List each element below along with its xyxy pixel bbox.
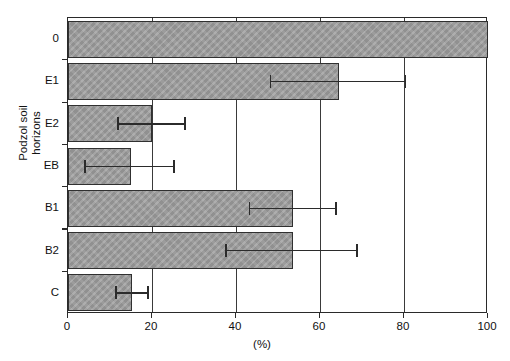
- error-bar-cap-low: [249, 202, 251, 215]
- y-tick-5: [62, 228, 67, 229]
- y-tick-1: [62, 59, 67, 60]
- error-bar-E1: [270, 75, 407, 88]
- y-tick-2: [62, 102, 67, 103]
- error-bar-cap-low: [270, 75, 272, 88]
- error-bar-E2: [117, 117, 185, 130]
- bar-chart-figure: 020406080100 0E1E2EBB1B2C (%) Podzol soi…: [0, 0, 510, 361]
- error-bar-line: [117, 123, 185, 124]
- error-bar-cap-high: [147, 286, 149, 299]
- y-tick-3: [62, 144, 67, 145]
- x-tick-label-0: 0: [64, 320, 70, 332]
- error-bar-line: [225, 250, 358, 251]
- bar-row: [68, 21, 488, 58]
- y-tick-6: [62, 271, 67, 272]
- x-tick-label-40: 40: [229, 320, 242, 332]
- error-bar-cap-high: [335, 202, 337, 215]
- error-bar-B2: [225, 244, 358, 257]
- bar-row: [68, 190, 488, 227]
- x-tick-40: [235, 313, 236, 318]
- error-bar-cap-low: [115, 286, 117, 299]
- x-tick-0: [67, 313, 68, 318]
- x-tick-60: [319, 313, 320, 318]
- x-tick-80: [403, 313, 404, 318]
- bar-row: [68, 105, 488, 142]
- y-tick-4: [62, 186, 67, 187]
- bar-row: [68, 232, 488, 269]
- y-tick-label-E1: E1: [15, 74, 59, 86]
- x-tick-label-100: 100: [477, 320, 496, 332]
- plot-area: [67, 17, 487, 313]
- error-bar-cap-high: [173, 160, 175, 173]
- y-tick-label-B2: B2: [15, 244, 59, 256]
- bar-texture: [69, 22, 487, 57]
- error-bar-cap-low: [117, 117, 119, 130]
- x-axis-title-text: (%): [253, 338, 271, 350]
- bar-0: [68, 21, 488, 58]
- error-bar-line: [115, 292, 149, 293]
- error-bar-EB: [84, 160, 175, 173]
- error-bar-B1: [249, 202, 337, 215]
- error-bar-cap-high: [184, 117, 186, 130]
- error-bar-line: [270, 81, 407, 82]
- error-bar-C: [115, 286, 149, 299]
- x-tick-label-20: 20: [145, 320, 158, 332]
- x-axis-title: (%): [0, 338, 510, 350]
- error-bar-cap-high: [405, 75, 407, 88]
- y-axis-title: Podzol soil horizons: [17, 101, 43, 165]
- x-tick-label-60: 60: [313, 320, 326, 332]
- error-bar-cap-low: [84, 160, 86, 173]
- x-tick-20: [151, 313, 152, 318]
- bar-row: [68, 274, 488, 311]
- x-tick-label-80: 80: [397, 320, 410, 332]
- y-tick-label-B1: B1: [15, 201, 59, 213]
- bar-row: [68, 63, 488, 100]
- error-bar-line: [249, 208, 337, 209]
- y-tick-label-C: C: [15, 286, 59, 298]
- error-bar-cap-low: [225, 244, 227, 257]
- error-bar-line: [84, 166, 175, 167]
- x-tick-100: [487, 313, 488, 318]
- error-bar-cap-high: [356, 244, 358, 257]
- y-tick-label-0: 0: [15, 32, 59, 44]
- bar-row: [68, 148, 488, 185]
